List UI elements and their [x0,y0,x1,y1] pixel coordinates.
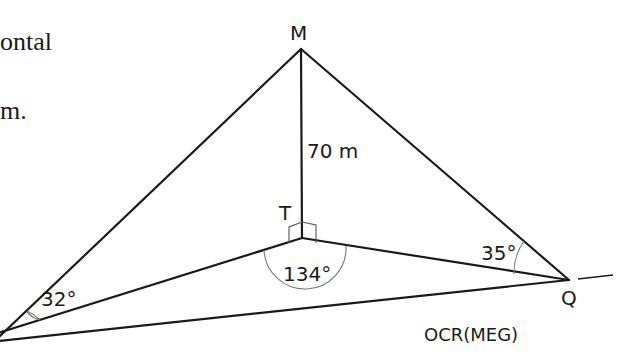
point-label-T: T [278,201,292,225]
3d-triangle-diagram: M T Q 70 m 32° 134° 35° OCR(MEG) [0,0,617,364]
angle-label-P: 32° [41,287,76,311]
point-label-Q: Q [561,286,577,310]
angle-label-T: 134° [283,262,331,286]
angle-label-Q: 35° [481,241,516,265]
angle-arc-P-main [27,311,40,320]
edge-MT [301,49,302,238]
edge-PT [0,238,302,333]
source-label: OCR(MEG) [424,324,518,345]
point-label-M: M [290,21,307,45]
length-label-MT: 70 m [307,139,358,163]
horizontal-extension-line [578,275,613,279]
edge-MQ [301,49,569,280]
